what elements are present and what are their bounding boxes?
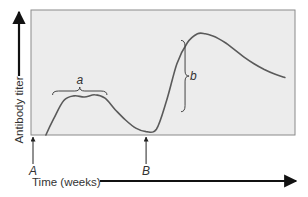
x-axis-label: Time (weeks) bbox=[32, 176, 101, 188]
marker-b-label: B bbox=[142, 164, 150, 178]
bracket-a-label: a bbox=[76, 73, 83, 87]
y-axis-label: Antibody titer bbox=[13, 76, 25, 143]
antibody-chart: a b A B Antibody titer Time (weeks) bbox=[0, 0, 308, 197]
plot-area bbox=[31, 10, 295, 135]
bracket-b-label: b bbox=[190, 69, 197, 83]
